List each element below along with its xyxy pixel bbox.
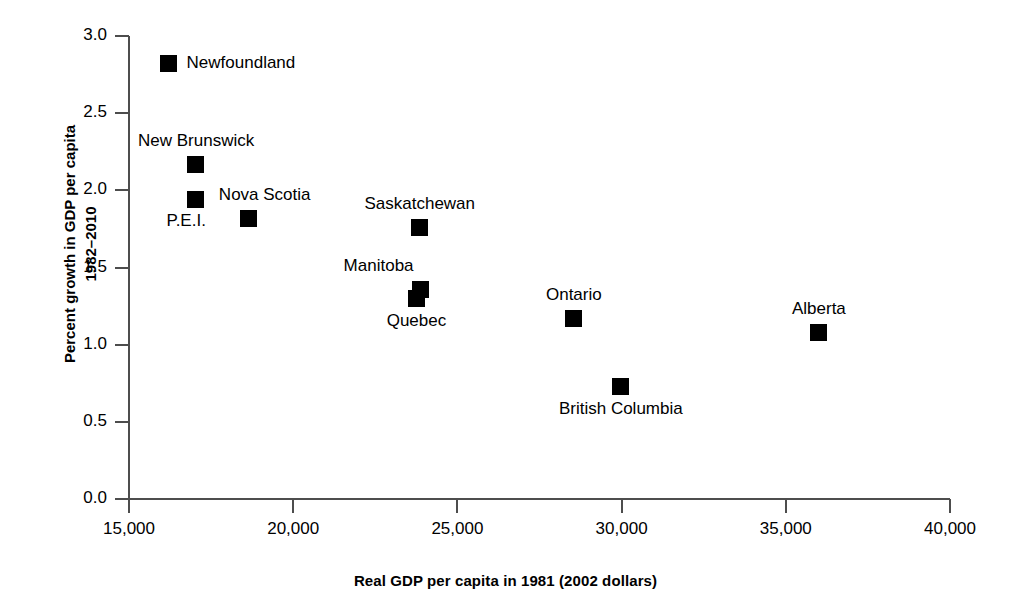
data-point-marker (187, 156, 204, 173)
x-tick-label: 20,000 (238, 519, 348, 539)
data-point-label: Ontario (546, 285, 602, 305)
tick-marks (115, 36, 950, 513)
x-tick-label: 40,000 (895, 519, 1005, 539)
data-markers (160, 55, 828, 395)
data-point-marker (160, 55, 177, 72)
data-point-marker (810, 324, 827, 341)
axis-lines (129, 36, 950, 499)
data-point-marker (240, 210, 257, 227)
data-point-label: Nova Scotia (219, 185, 311, 205)
scatter-chart-figure: 0.00.51.01.52.02.53.0 15,00020,00025,000… (0, 0, 1011, 604)
x-tick-label: 35,000 (731, 519, 841, 539)
y-axis-title-line-1: Percent growth in GDP per capita (59, 125, 80, 363)
data-point-marker (411, 219, 428, 236)
data-point-label: British Columbia (559, 399, 683, 419)
data-point-label: New Brunswick (138, 131, 254, 151)
data-point-label: Saskatchewan (364, 194, 475, 214)
data-point-label: Quebec (387, 311, 447, 331)
data-point-label: P.E.I. (166, 211, 205, 231)
data-point-label: Alberta (792, 299, 846, 319)
x-tick-label: 15,000 (74, 519, 184, 539)
x-tick-label: 30,000 (567, 519, 677, 539)
data-point-marker (187, 191, 204, 208)
y-axis-title-line-2: 1982–2010 (80, 206, 101, 281)
data-point-marker (565, 310, 582, 327)
x-axis-title: Real GDP per capita in 1981 (2002 dollar… (0, 572, 1011, 589)
y-axis-title: Percent growth in GDP per capita 1982–20… (58, 9, 102, 479)
x-tick-label: 25,000 (402, 519, 512, 539)
data-point-marker (612, 378, 629, 395)
data-point-label: Newfoundland (187, 53, 296, 73)
data-point-label: Manitoba (344, 256, 414, 276)
y-tick-label: 0.0 (51, 488, 107, 508)
plot-canvas (0, 0, 1011, 604)
data-point-marker (408, 290, 425, 307)
